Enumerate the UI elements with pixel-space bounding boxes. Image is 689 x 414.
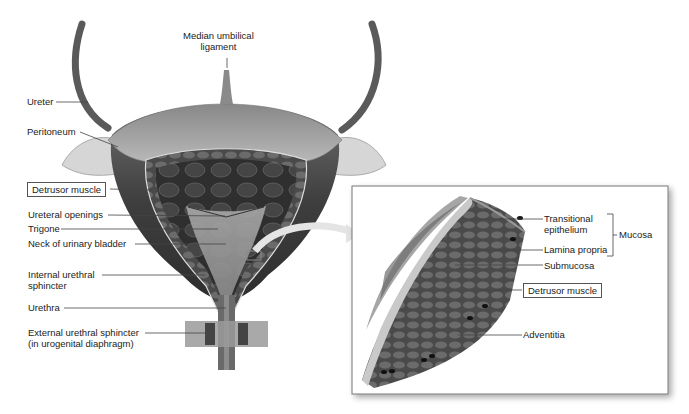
- label-neck-of-bladder: Neck of urinary bladder: [28, 238, 126, 249]
- label-median-line2: ligament: [183, 41, 254, 52]
- label-ureter: Ureter: [27, 96, 53, 107]
- label-internal-line2: sphincter: [28, 280, 95, 291]
- label-median-umbilical-ligament: Median umbilical ligament: [183, 30, 254, 52]
- label-transitional-line1: Transitional: [544, 213, 593, 224]
- right-ureter: [342, 24, 378, 130]
- label-median-line1: Median umbilical: [183, 30, 254, 41]
- label-trigone: Trigone: [28, 223, 60, 234]
- label-detrusor-muscle: Detrusor muscle: [27, 182, 106, 197]
- label-inset-detrusor-muscle: Detrusor muscle: [523, 283, 602, 298]
- label-external-line1: External urethral sphincter: [28, 327, 139, 338]
- label-urethra: Urethra: [28, 302, 60, 313]
- label-ureteral-openings: Ureteral openings: [28, 209, 103, 220]
- label-peritoneum: Peritoneum: [27, 126, 76, 137]
- label-internal-line1: Internal urethral: [28, 269, 95, 280]
- label-lamina-propria: Lamina propria: [544, 244, 607, 255]
- label-transitional-epithelium: Transitional epithelium: [544, 213, 593, 235]
- label-external-line2: (in urogenital diaphragm): [28, 338, 139, 349]
- bladder-diagram-art: [0, 0, 689, 414]
- label-internal-urethral-sphincter: Internal urethral sphincter: [28, 269, 95, 291]
- label-transitional-line2: epithelium: [544, 224, 593, 235]
- label-external-urethral-sphincter: External urethral sphincter (in urogenit…: [28, 327, 139, 349]
- label-adventitia: Adventitia: [523, 329, 565, 340]
- left-ureter: [75, 24, 108, 128]
- label-mucosa: Mucosa: [619, 229, 652, 240]
- label-submucosa: Submucosa: [544, 260, 594, 271]
